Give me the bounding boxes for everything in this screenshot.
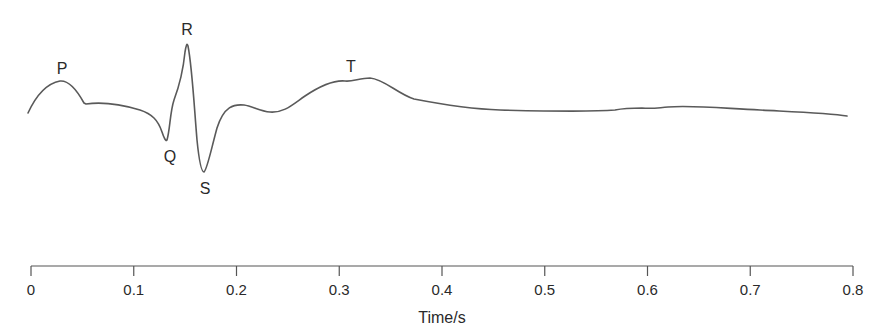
label-r-wave: R: [181, 21, 193, 38]
label-t-wave: T: [346, 58, 356, 75]
x-tick-label: 0.5: [534, 281, 555, 298]
x-tick-label: 0.6: [637, 281, 658, 298]
x-tick-label: 0.1: [123, 281, 144, 298]
x-tick-label: 0.4: [432, 281, 453, 298]
x-axis: 0 0.1 0.2 0.3 0.4 0.5 0.6 0.7 0.8 Time/s: [27, 266, 864, 326]
x-tick-label: 0.8: [843, 281, 864, 298]
label-q-wave: Q: [164, 148, 176, 165]
x-axis-title: Time/s: [418, 309, 465, 326]
ecg-waveform-line: [28, 44, 847, 172]
x-tick-label: 0.7: [740, 281, 761, 298]
x-tick-label: 0.2: [226, 281, 247, 298]
x-tick-label: 0: [27, 281, 35, 298]
label-p-wave: P: [57, 60, 68, 77]
ecg-chart: P R Q S T 0 0.1 0.2 0.3 0.4 0.5 0.6 0.7 …: [0, 0, 894, 335]
label-s-wave: S: [200, 180, 211, 197]
x-tick-label: 0.3: [329, 281, 350, 298]
